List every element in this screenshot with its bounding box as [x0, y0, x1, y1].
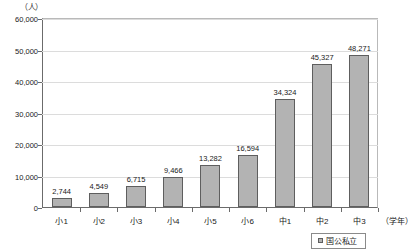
x-axis-category-label: 小3 [130, 215, 142, 226]
y-axis-tick-mark [38, 114, 42, 115]
x-axis-tick-mark [229, 208, 230, 212]
bars-layer: 2,7444,5496,7159,46613,28216,59434,32445… [43, 18, 378, 207]
bar[interactable] [349, 55, 369, 207]
x-axis-category-label: 中3 [353, 215, 365, 226]
x-axis-category-label: 小1 [55, 215, 67, 226]
bar-slot: 4,549 [80, 18, 117, 207]
bar[interactable] [163, 177, 183, 207]
x-axis-tick-mark [304, 208, 305, 212]
bar-value-label: 4,549 [89, 182, 108, 191]
y-axis-unit-label: （人） [20, 1, 43, 12]
y-axis-tick-label: 50,000 [15, 46, 38, 55]
bar-value-label: 13,282 [199, 154, 222, 163]
bar-slot: 9,466 [155, 18, 192, 207]
y-axis-tick-label: 30,000 [15, 109, 38, 118]
x-axis-category-label: 小5 [204, 215, 216, 226]
y-axis-tick-mark [38, 82, 42, 83]
x-axis-tick-mark [117, 208, 118, 212]
x-axis-category-label: 小6 [241, 215, 253, 226]
y-axis-tick-mark [38, 177, 42, 178]
y-axis-tick-label: 0 [34, 204, 38, 213]
y-axis-tick-label: 40,000 [15, 78, 38, 87]
x-axis-tick-mark [266, 208, 267, 212]
x-axis-tick-mark [341, 208, 342, 212]
bar-value-label: 9,466 [164, 166, 183, 175]
x-axis-tick-mark [192, 208, 193, 212]
x-axis-category-label: 小2 [93, 215, 105, 226]
bar-slot: 2,744 [43, 18, 80, 207]
legend-swatch-icon [318, 238, 323, 243]
y-axis-tick-label: 20,000 [15, 141, 38, 150]
y-axis-tick-label: 60,000 [15, 15, 38, 24]
bar-value-label: 34,324 [273, 88, 296, 97]
legend-label: 国公私立 [326, 235, 357, 246]
x-axis-category-label: 中1 [279, 215, 291, 226]
x-axis-tick-mark [155, 208, 156, 212]
bar[interactable] [238, 155, 258, 207]
y-axis-tick-mark [38, 208, 42, 209]
bar-chart: （人） 010,00020,00030,00040,00050,00060,00… [0, 0, 410, 251]
bar[interactable] [275, 99, 295, 207]
bar-value-label: 45,327 [311, 53, 334, 62]
x-axis-category-label: 小4 [167, 215, 179, 226]
bar-value-label: 16,594 [236, 144, 259, 153]
y-axis-tick-mark [38, 51, 42, 52]
y-axis-tick-label: 10,000 [15, 172, 38, 181]
y-axis-tick-mark [38, 19, 42, 20]
bar-value-label: 2,744 [52, 187, 71, 196]
bar[interactable] [200, 165, 220, 207]
bar-slot: 45,327 [304, 18, 341, 207]
bar[interactable] [126, 186, 146, 207]
x-axis-tick-mark [378, 208, 379, 212]
bar[interactable] [52, 198, 72, 207]
bar-slot: 16,594 [229, 18, 266, 207]
bar[interactable] [312, 64, 332, 207]
bar[interactable] [89, 193, 109, 207]
x-axis-tick-mark [80, 208, 81, 212]
bar-slot: 6,715 [117, 18, 154, 207]
bar-value-label: 6,715 [127, 175, 146, 184]
x-axis-title: （学年） [381, 215, 410, 226]
y-axis-tick-mark [38, 145, 42, 146]
bar-slot: 34,324 [266, 18, 303, 207]
x-axis-category-label: 中2 [316, 215, 328, 226]
legend: 国公私立 [311, 233, 366, 249]
bar-slot: 48,271 [341, 18, 378, 207]
bar-slot: 13,282 [192, 18, 229, 207]
bar-value-label: 48,271 [348, 44, 371, 53]
